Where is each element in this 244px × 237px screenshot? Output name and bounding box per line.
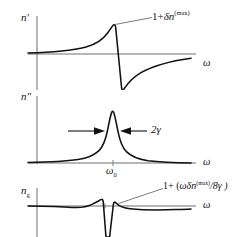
width-arrow-right-head — [120, 127, 131, 135]
page-artifact-text: ·· ·· ······ ··· · ····· ··· ·· — [0, 0, 244, 9]
physics-figure: ·· ·· ······ ··· · ····· ··· ·· n′ ω 1+δ… — [0, 0, 244, 237]
panel-n-imag-ylabel: n″ — [21, 91, 31, 102]
annotation-superscript: (max) — [196, 180, 210, 186]
annotation-superscript: (max) — [174, 9, 189, 16]
omega0-subscript: 0 — [113, 171, 116, 178]
width-arrow-left-head — [94, 127, 105, 135]
dispersion-curve — [28, 25, 191, 90]
annotation-leader-line — [119, 189, 164, 204]
annotation-prefix: 1+ — [152, 10, 164, 22]
artifact-label: ·· ·· ······ ··· · ····· ··· ·· — [0, 0, 81, 4]
ylabel-subscript: g — [27, 191, 30, 198]
group-index-curve — [28, 199, 191, 237]
panel-n-imag-xlabel: ω — [203, 157, 210, 168]
panel-n-real-ylabel: n′ — [21, 12, 29, 23]
ylabel-prime: ′ — [27, 11, 29, 23]
panel-n-group: ng ω 1+ (ωδn(max)/8γ ) — [0, 182, 244, 237]
annotation-prefix: 1+ ( — [163, 180, 179, 191]
linewidth-label: 2γ — [151, 124, 161, 135]
absorption-curve — [28, 111, 191, 163]
panel-n-group-xlabel: ω — [203, 200, 210, 211]
annotation-peak-value: 1+δn(max) — [152, 10, 190, 22]
panel-n-imag: n″ ω 2γ ω0 — [0, 88, 244, 176]
resonance-frequency-label: ω0 — [106, 166, 117, 179]
ylabel-dprime: ″ — [27, 90, 32, 102]
annotation-symbol: δn — [164, 10, 175, 22]
panel-n-real: n′ ω 1+δn(max) — [0, 12, 244, 90]
annotation-denominator: /8γ ) — [210, 180, 228, 191]
panel-n-real-xlabel: ω — [203, 58, 210, 69]
annotation-group-index-value: 1+ (ωδn(max)/8γ ) — [163, 181, 228, 191]
panel-n-group-ylabel: ng — [21, 185, 30, 199]
panel-n-real-plot — [0, 12, 244, 90]
annotation-symbol: ωδn — [179, 180, 196, 191]
annotation-leader-line — [115, 18, 152, 25]
